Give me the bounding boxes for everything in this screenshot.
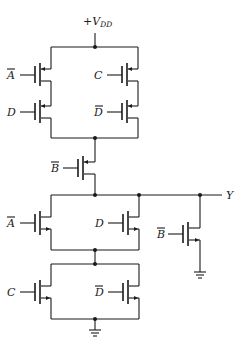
svg-text:+VDD: +VDD (83, 15, 112, 29)
label-d-2: D (94, 217, 104, 230)
pmos-b-bar-series: B (50, 138, 95, 195)
pmos-d-pullup: D (6, 100, 51, 138)
label-a-bar-1: A (6, 69, 15, 82)
cmos-schematic: +VDD A D C (0, 0, 246, 341)
output-label: Y (226, 189, 235, 202)
label-b-bar-2: B (156, 228, 165, 241)
nmos-b-bar-right: B (156, 195, 206, 278)
label-c-1: C (94, 69, 103, 82)
nmos-d-bar-pulldown: D (94, 264, 139, 319)
label-b-bar-1: B (50, 162, 59, 175)
label-c-2: C (7, 286, 16, 299)
ground-main (51, 317, 139, 336)
nmos-d-pulldown: D (94, 195, 139, 250)
vdd-subscript: DD (99, 20, 112, 29)
pmos-d-bar-pullup: D (93, 100, 138, 138)
label-a-bar-2: A (6, 217, 15, 230)
label-d-1: D (6, 106, 16, 119)
label-d-bar-2: D (94, 286, 104, 299)
nmos-a-bar-pulldown: A (6, 195, 51, 250)
nmos-c-pulldown: C (7, 264, 51, 319)
output-node: Y (51, 189, 235, 202)
vdd-label: +V (83, 15, 101, 28)
vdd-supply: +VDD (51, 15, 138, 49)
pmos-a-bar-pullup: A (6, 47, 51, 106)
pmos-c-pullup: C (94, 47, 138, 106)
label-d-bar-1: D (93, 106, 103, 119)
